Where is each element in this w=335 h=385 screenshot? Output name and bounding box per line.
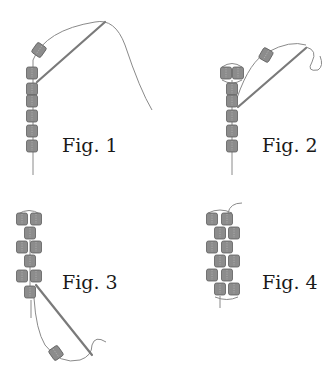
bead [215, 283, 226, 295]
bead [27, 83, 38, 95]
bead [31, 241, 42, 253]
bead [31, 270, 42, 282]
figure-1-label: Fig. 1 [62, 134, 118, 156]
bead [258, 47, 274, 63]
bead [222, 241, 233, 253]
needle [37, 22, 105, 82]
figure-3-label: Fig. 3 [62, 271, 118, 293]
bead [25, 227, 36, 239]
bead [17, 213, 28, 225]
bead [229, 283, 240, 295]
figure-4-illustration [207, 203, 243, 308]
bead [27, 140, 38, 152]
bead [27, 67, 38, 79]
bead [25, 286, 36, 298]
bead [227, 125, 238, 137]
bead [215, 255, 226, 267]
bead [207, 269, 218, 281]
bead [27, 95, 38, 107]
bead [227, 83, 238, 95]
bead [221, 67, 232, 79]
bead [229, 255, 240, 267]
bead [25, 255, 36, 267]
needle [238, 48, 306, 107]
bead [17, 270, 28, 282]
bead [229, 227, 240, 239]
bead [222, 213, 233, 225]
bead [31, 213, 42, 225]
bead [27, 125, 38, 137]
beading-diagram [0, 0, 335, 385]
figure-4-label: Fig. 4 [262, 271, 318, 293]
bead [227, 95, 238, 107]
bead [227, 140, 238, 152]
bead [215, 227, 226, 239]
bead [27, 110, 38, 122]
bead [233, 67, 244, 79]
bead [222, 269, 233, 281]
bead [227, 110, 238, 122]
bead [207, 241, 218, 253]
figure-2-label: Fig. 2 [262, 134, 318, 156]
bead [207, 213, 218, 225]
bead [31, 42, 47, 58]
bead [17, 241, 28, 253]
